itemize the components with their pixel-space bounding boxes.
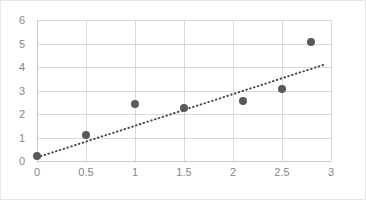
x-axis-tick-label: 0: [17, 167, 57, 178]
x-axis-tick-label: 1: [115, 167, 155, 178]
x-axis-tick-label: 1.5: [164, 167, 204, 178]
y-axis-tick-label: 6: [0, 15, 25, 26]
trendline-series: [37, 20, 331, 161]
plot-area: [37, 20, 331, 161]
x-axis-tick-label: 2.5: [262, 167, 302, 178]
x-axis-tick-label: 0.5: [66, 167, 106, 178]
gridline-horizontal: [37, 161, 331, 162]
y-axis-tick-label: 1: [0, 132, 25, 143]
x-axis-tick-label: 2: [213, 167, 253, 178]
y-axis-tick-label: 5: [0, 38, 25, 49]
y-axis-tick-label: 2: [0, 109, 25, 120]
chart-frame: 0123456 00.511.522.53: [0, 0, 366, 200]
y-axis-tick-label: 3: [0, 85, 25, 96]
y-axis-tick-label: 0: [0, 156, 25, 167]
gridline-vertical: [331, 20, 332, 161]
y-axis-tick-label: 4: [0, 62, 25, 73]
data-point-marker: [239, 97, 247, 105]
x-axis-tick-label: 3: [311, 167, 351, 178]
